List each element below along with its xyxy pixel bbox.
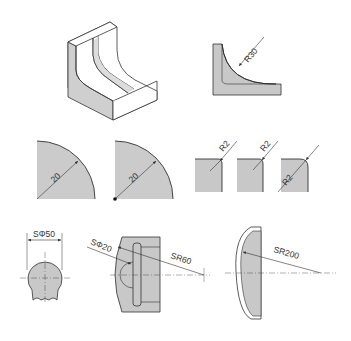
fillet-r2-2-figure: R2 bbox=[237, 138, 278, 192]
sphere-section-figure: SR60 SΦ20 bbox=[87, 237, 210, 312]
sphere-radius-200-figure: SR200 bbox=[225, 227, 336, 319]
quarter-circle-2-figure: 20 bbox=[113, 141, 173, 201]
fillet-r2-1-figure: R2 bbox=[195, 138, 237, 192]
s-phi-20-label: SΦ20 bbox=[89, 237, 113, 255]
r30-label: R30 bbox=[242, 46, 260, 65]
sphere-diameter-figure: SΦ50 bbox=[20, 229, 70, 302]
quarter-circle-1-figure: 20 bbox=[37, 141, 95, 199]
sr200-label: SR200 bbox=[272, 244, 300, 261]
drawing-canvas: R30 20 20 R2 R2 R2 bbox=[0, 0, 351, 341]
sr60-label: SR60 bbox=[169, 250, 193, 266]
s-phi-50-label: SΦ50 bbox=[33, 229, 55, 239]
section-r30-figure: R30 bbox=[213, 37, 281, 95]
r2-label-2: R2 bbox=[258, 138, 273, 153]
fillet-r2-3-figure: R2 bbox=[278, 145, 319, 192]
iso-block-figure bbox=[68, 22, 157, 120]
r2-label-1: R2 bbox=[217, 138, 232, 153]
